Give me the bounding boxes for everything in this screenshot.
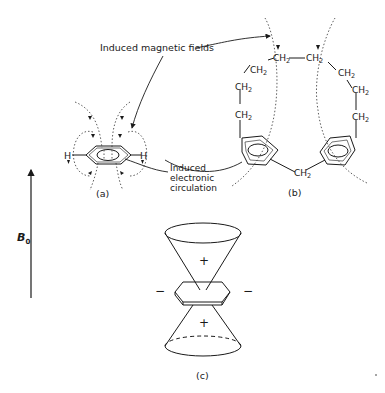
ch2-group: CH2 [235, 110, 252, 122]
electronic-circulation-label-3: circulation [170, 183, 217, 194]
ch2-group: CH2 [306, 53, 323, 65]
left-deshielding-sign: − [155, 284, 165, 298]
right-deshielding-sign: − [243, 284, 253, 298]
bottom-cone-shielding-sign: + [199, 316, 209, 330]
ch2-group: CH2 [235, 82, 252, 94]
stray-mark [375, 374, 377, 376]
ch2-group: CH2 [294, 168, 311, 180]
panel-c-label: (c) [196, 370, 209, 381]
ch2-group: CH2 [273, 53, 290, 65]
diagram-canvas [0, 0, 385, 393]
ch2-group: CH2 [352, 112, 369, 124]
ch2-group: CH2 [250, 65, 267, 77]
induced-fields-label: Induced magnetic fields [100, 42, 214, 53]
field-arrowheads-b [276, 45, 320, 50]
field-lines-b [232, 18, 367, 186]
shielding-cones-c [165, 223, 241, 356]
panel-b-label: (b) [288, 187, 301, 198]
ch2-group: CH2 [352, 85, 369, 97]
panel-a-label: (a) [96, 188, 109, 199]
top-cone-shielding-sign: + [199, 254, 209, 268]
b0-field-label: B0 [17, 231, 30, 246]
hydrogen-left: H [64, 150, 71, 161]
hydrogen-right: H [140, 150, 147, 161]
ch2-group: CH2 [338, 68, 355, 80]
